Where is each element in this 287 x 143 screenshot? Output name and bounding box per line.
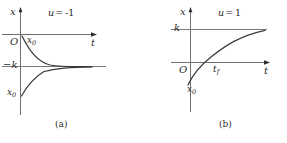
panel-a-origin-label: O — [10, 37, 18, 47]
panel-a-y-axis-arrowhead — [19, 7, 23, 12]
panel-b-tf-sub: f — [217, 68, 219, 76]
panel-a-x0-lower-label: x0 — [7, 88, 16, 97]
panel-a-lower-trajectory — [22, 67, 93, 96]
panel-b-trajectory — [188, 30, 265, 85]
panel-a: u=-1 x t O x0 −k x0 (a) — [0, 0, 143, 143]
panel-b-control-label: u=1 — [218, 8, 242, 18]
panel-a-asymptote-label: −k — [3, 60, 17, 70]
panel-a-caption: (a) — [55, 120, 67, 129]
panel-a-x-axis-label: t — [91, 38, 95, 48]
panel-b-origin-label: O — [179, 65, 187, 75]
panel-a-control-value: -1 — [64, 7, 75, 18]
panel-b: u=1 x k t O tf x0 (b) — [143, 0, 287, 143]
panel-a-x0-upper-label: x0 — [27, 36, 36, 45]
panel-b-x0-label: x0 — [187, 85, 196, 94]
panel-b-control-op: = — [224, 7, 234, 18]
panel-b-x0-sub: 0 — [192, 88, 196, 96]
panel-a-x0-upper-sub: 0 — [32, 39, 36, 47]
panel-b-x-axis-label: t — [264, 66, 268, 76]
panel-b-tf-label: tf — [213, 65, 219, 74]
panel-a-control-label: u=-1 — [48, 8, 75, 18]
panel-b-control-value: 1 — [234, 7, 242, 18]
panel-a-control-op: = — [54, 7, 64, 18]
figure-container: u=-1 x t O x0 −k x0 (a) — [0, 0, 287, 143]
panel-a-plot — [0, 0, 143, 143]
panel-a-y-axis-label: x — [10, 7, 16, 17]
panel-b-y-axis-label: x — [180, 7, 186, 17]
panel-b-y-axis-arrowhead — [189, 7, 193, 12]
panel-b-asymptote-label: k — [174, 23, 180, 33]
panel-a-x0-lower-sub: 0 — [12, 91, 16, 99]
panel-b-caption: (b) — [219, 120, 232, 129]
